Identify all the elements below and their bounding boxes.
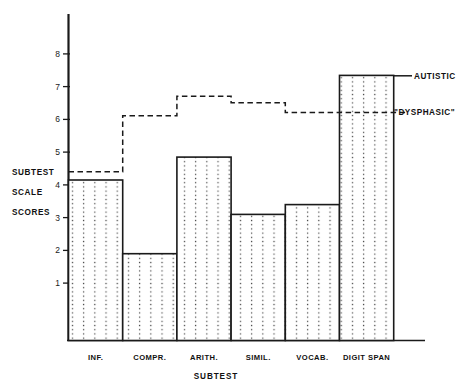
y-tick-label-3: 3 (55, 213, 60, 223)
subtest-scale-scores-bar-chart: 1 2 3 4 5 6 7 8 (0, 0, 463, 392)
legend-label-autistic: AUTISTIC (414, 72, 456, 81)
x-label-inf: INF. (88, 353, 103, 362)
x-label-compr: COMPR. (133, 353, 166, 362)
x-label-vocab: VOCAB. (296, 353, 328, 362)
y-tick-label-5: 5 (55, 147, 60, 157)
bar-arith (177, 157, 231, 340)
bar-compr (123, 254, 177, 341)
bar-vocab (285, 205, 339, 341)
chart-figure: 1 2 3 4 5 6 7 8 (0, 0, 463, 392)
y-tick-label-8: 8 (55, 49, 60, 59)
bar-simil (231, 214, 285, 340)
y-tick-label-7: 7 (55, 82, 60, 92)
y-tick-label-4: 4 (55, 180, 60, 190)
x-axis-title: SUBTEST (194, 372, 239, 381)
y-tick-label-1: 1 (55, 278, 60, 288)
y-tick-label-6: 6 (55, 114, 60, 124)
y-axis-title-line-2: SCALE (12, 188, 43, 197)
legend-label-dysphasic: "DYSPHASIC" (394, 108, 455, 117)
y-axis-title-line-1: SUBTEST (12, 168, 54, 177)
x-label-simil: SIMIL. (246, 353, 271, 362)
x-label-arith: ARITH. (190, 353, 218, 362)
y-axis-title-line-3: SCORES (12, 208, 50, 217)
bar-digit-span (340, 75, 394, 340)
y-tick-label-2: 2 (55, 245, 60, 255)
x-label-digit-span: DIGIT SPAN (343, 353, 390, 362)
bar-inf (69, 180, 123, 341)
